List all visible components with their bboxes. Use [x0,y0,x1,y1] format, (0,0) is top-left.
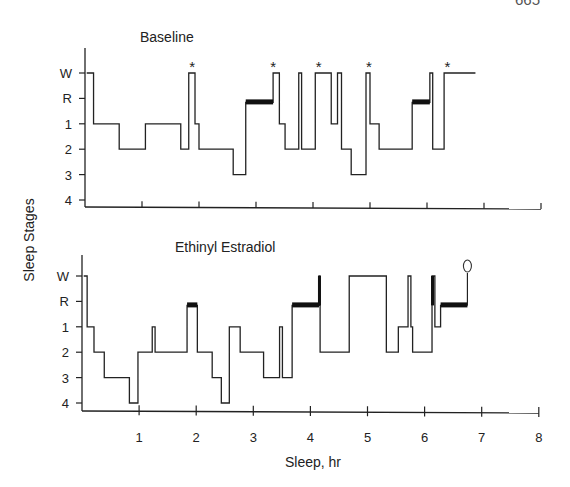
x-tick-label: 5 [364,430,371,445]
rem-bar [187,302,197,307]
baseline-panel: BaselineWR1234***** [60,29,541,209]
y-tick-label: 2 [65,142,72,157]
y-axis-label: Sleep Stages [21,198,37,281]
x-tick-label: 7 [478,430,485,445]
rem-bar [292,302,319,307]
x-tick-label: 6 [421,430,428,445]
awakening-star-icon: * [445,58,451,75]
y-tick-label: 1 [65,117,72,132]
rem-bar [318,276,321,305]
hypnogram-trace [84,276,468,403]
end-circle-icon [463,260,471,272]
y-tick-label: 3 [65,168,72,183]
y-tick-label: 2 [62,345,69,360]
rem-bar [431,276,434,305]
ethinyl-estradiol-panel: Ethinyl EstradiolWR123412345678 [57,239,543,445]
panel-title: Baseline [140,29,194,45]
rem-bar [412,99,430,104]
awakening-star-icon: * [366,58,372,75]
svg-text:Sleep Stages: Sleep Stages [21,198,37,281]
x-tick-label: 8 [535,430,542,445]
y-tick-label: 1 [62,320,69,335]
panel-title: Ethinyl Estradiol [175,239,275,255]
y-tick-label: 4 [65,193,72,208]
x-tick-label: 1 [135,430,142,445]
x-tick-label: 4 [307,430,314,445]
awakening-star-icon: * [316,58,322,75]
hypnogram-figure: Sleep Stages BaselineWR1234***** Ethinyl… [0,0,570,487]
y-tick-label: 4 [62,396,69,411]
y-tick-label: R [60,294,69,309]
rem-bar [441,302,468,307]
x-tick-label: 2 [193,430,200,445]
y-tick-label: W [60,66,73,81]
awakening-star-icon: * [270,58,276,75]
x-axis-label: Sleep, hr [285,454,341,470]
hypnogram-trace [87,73,476,175]
y-tick-label: R [63,91,72,106]
awakening-star-icon: * [189,58,195,75]
x-tick-label: 3 [250,430,257,445]
y-tick-label: 3 [62,371,69,386]
rem-bar [246,99,273,104]
y-tick-label: W [57,269,70,284]
